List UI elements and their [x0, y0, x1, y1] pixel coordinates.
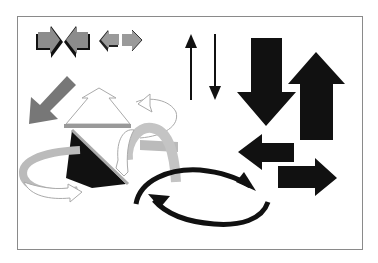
big-black-up-arrow-icon [288, 52, 345, 140]
curved-ribbon-right-arrow-icon [116, 94, 178, 182]
arrows-clipart [0, 0, 378, 263]
thin-down-arrow-icon [209, 34, 221, 100]
small-gray-right-arrow-icon [122, 30, 142, 51]
small-gray-left-arrow-icon [99, 30, 119, 52]
medium-black-left-arrow-icon [238, 134, 294, 170]
big-black-down-arrow-icon [237, 38, 296, 126]
thin-up-arrow-icon [185, 34, 197, 100]
medium-black-right-arrow-icon [278, 158, 337, 196]
outline-up-arrow-icon [64, 88, 131, 128]
cycle-arrows-icon [136, 170, 268, 225]
converging-arrow-right-icon [36, 26, 63, 58]
gray-diagonal-arrow-icon [29, 76, 76, 124]
converging-arrow-left-icon [64, 26, 90, 58]
